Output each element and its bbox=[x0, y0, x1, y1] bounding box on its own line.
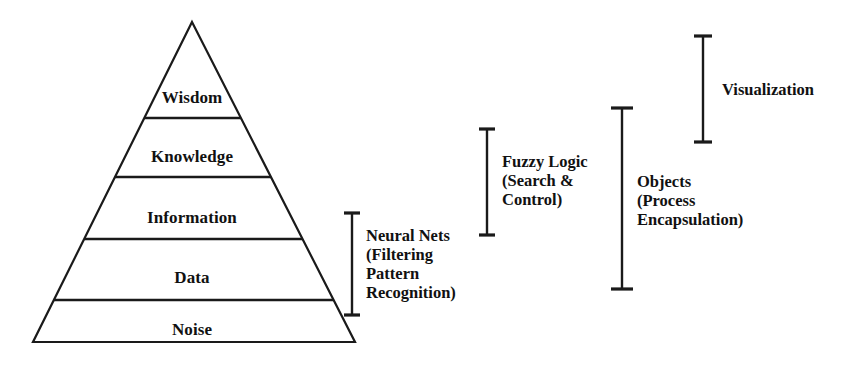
bracket-fuzzy-logic bbox=[479, 129, 495, 235]
bracket-objects bbox=[611, 108, 633, 289]
tier-label-data: Data bbox=[0, 268, 384, 288]
tier-label-wisdom: Wisdom bbox=[0, 88, 384, 108]
pyramid-triangle bbox=[33, 22, 355, 342]
annotation-label-neural-nets: Neural Nets (Filtering Pattern Recogniti… bbox=[366, 226, 456, 302]
annotation-label-fuzzy-logic: Fuzzy Logic (Search & Control) bbox=[502, 152, 588, 209]
knowledge-pyramid-diagram: WisdomKnowledgeInformationDataNoise Neur… bbox=[0, 0, 868, 365]
tier-label-knowledge: Knowledge bbox=[0, 147, 384, 167]
annotation-label-visualization: Visualization bbox=[722, 80, 814, 99]
tier-label-noise: Noise bbox=[0, 320, 384, 340]
annotation-label-objects: Objects (Process Encapsulation) bbox=[637, 172, 743, 229]
bracket-neural-nets bbox=[344, 213, 360, 315]
bracket-visualization bbox=[694, 36, 712, 142]
pyramid-outline bbox=[33, 22, 355, 342]
tier-label-information: Information bbox=[0, 208, 384, 228]
